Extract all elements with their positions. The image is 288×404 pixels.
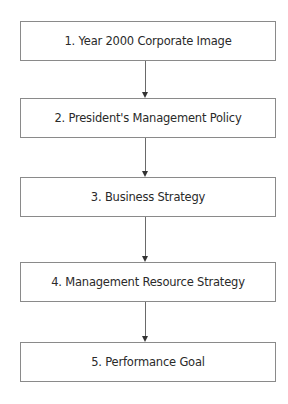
- step-label: 3. Business Strategy: [91, 190, 205, 204]
- step-label: 2. President's Management Policy: [54, 111, 241, 125]
- step-label: 5. Performance Goal: [91, 355, 205, 369]
- step-label: 4. Management Resource Strategy: [51, 275, 245, 289]
- step-box-corporate-image: 1. Year 2000 Corporate Image: [20, 21, 276, 61]
- step-box-business-strategy: 3. Business Strategy: [20, 177, 276, 217]
- step-box-resource-strategy: 4. Management Resource Strategy: [20, 262, 276, 302]
- step-box-management-policy: 2. President's Management Policy: [20, 98, 276, 138]
- step-label: 1. Year 2000 Corporate Image: [64, 34, 231, 48]
- step-box-performance-goal: 5. Performance Goal: [20, 342, 276, 382]
